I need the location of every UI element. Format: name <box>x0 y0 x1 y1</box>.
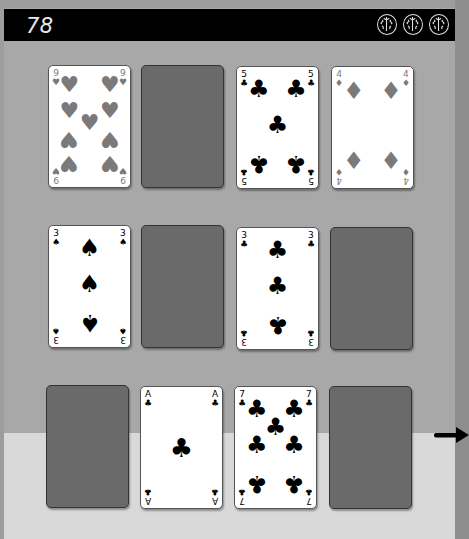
card-face-down[interactable] <box>141 225 224 348</box>
spade-pips: ♠ ♠ ♠ <box>49 226 130 347</box>
arrow-right-icon[interactable] <box>434 427 469 443</box>
card-face-down[interactable] <box>329 386 412 509</box>
card-9-hearts[interactable]: 9♥ 9♥ 9♥ 9♥ ♥ ♥ ♥ ♥ ♥ ♥ ♥ ♥ ♥ <box>48 65 131 188</box>
club-pips: ♣ ♣ ♣ ♣ ♣ <box>237 67 318 188</box>
top-bar: 78 <box>4 9 455 41</box>
right-edge-strip <box>455 0 469 539</box>
diamond-pips: ♦ ♦ ♦ ♦ <box>332 67 413 188</box>
card-face-down[interactable] <box>330 227 413 350</box>
card-ace-clubs[interactable]: A♣ A♣ A♣ A♣ ♣ <box>140 386 223 509</box>
club-pips: ♣ <box>141 387 222 508</box>
brain-icon <box>377 14 397 35</box>
card-5-clubs[interactable]: 5♣ 5♣ 5♣ 5♣ ♣ ♣ ♣ ♣ ♣ <box>236 66 319 189</box>
club-pips: ♣ ♣ ♣ ♣ ♣ ♣ ♣ <box>235 387 316 508</box>
card-7-clubs[interactable]: 7♣ 7♣ 7♣ 7♣ ♣ ♣ ♣ ♣ ♣ ♣ ♣ <box>234 386 317 509</box>
club-pips: ♣ ♣ ♣ <box>237 228 318 349</box>
card-3-clubs[interactable]: 3♣ 3♣ 3♣ 3♣ ♣ ♣ ♣ <box>236 227 319 350</box>
card-face-down[interactable] <box>46 385 129 508</box>
lives-indicator <box>377 14 449 35</box>
score-counter: 78 <box>26 14 54 38</box>
brain-icon <box>429 14 449 35</box>
card-4-diamonds[interactable]: 4♦ 4♦ 4♦ 4♦ ♦ ♦ ♦ ♦ <box>331 66 414 189</box>
brain-icon <box>403 14 423 35</box>
heart-pips: ♥ ♥ ♥ ♥ ♥ ♥ ♥ ♥ ♥ <box>49 66 130 187</box>
card-3-spades[interactable]: 3♠ 3♠ 3♠ 3♠ ♠ ♠ ♠ <box>48 225 131 348</box>
card-face-down[interactable] <box>141 65 224 188</box>
